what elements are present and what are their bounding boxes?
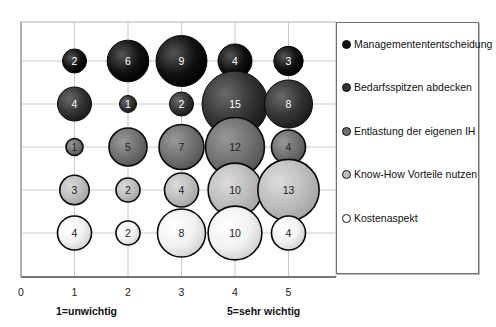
legend-label: Kostenaspekt <box>354 212 418 224</box>
legend-label: Bedarfsspitzen abdecken <box>354 81 472 93</box>
x-tick-label: 3 <box>179 286 185 298</box>
x-tick-label: 4 <box>232 286 238 298</box>
bubble-value-label: 4 <box>72 227 78 239</box>
bubble-value-label: 4 <box>179 184 185 196</box>
legend-item-kostenaspekt: Kostenaspekt <box>342 212 418 224</box>
legend-item-entlastung: Entlastung der eigenen IH <box>342 125 475 137</box>
bubble-value-label: 13 <box>283 184 295 196</box>
legend-item-management: Managementententscheidung <box>342 38 492 50</box>
chart-legend: Managementententscheidung Bedarfsspitzen… <box>336 22 479 274</box>
bubble-value-label: 5 <box>125 141 131 153</box>
legend-swatch-icon <box>342 170 351 179</box>
bubble-value-label: 3 <box>286 55 292 67</box>
axis-annotation-high: 5=sehr wichtig <box>227 305 300 317</box>
legend-swatch-icon <box>342 83 351 92</box>
bubble-value-label: 2 <box>179 98 185 110</box>
x-tick-label: 1 <box>72 286 78 298</box>
bubble-value-label: 2 <box>72 55 78 67</box>
legend-label: Entlastung der eigenen IH <box>354 125 475 137</box>
x-tick-label: 5 <box>286 286 292 298</box>
x-tick-label: 0 <box>18 286 24 298</box>
bubble-value-label: 6 <box>125 55 131 67</box>
bubble-value-label: 10 <box>229 227 241 239</box>
legend-item-bedarfsspitzen: Bedarfsspitzen abdecken <box>342 81 472 93</box>
x-tick-labels: 012345 <box>18 286 292 298</box>
bubble-value-label: 4 <box>286 227 292 239</box>
bubble-value-label: 4 <box>72 98 78 110</box>
bubble-value-label: 2 <box>125 227 131 239</box>
bubble-value-label: 1 <box>72 141 78 153</box>
bubble-value-label: 9 <box>179 55 185 67</box>
legend-swatch-icon <box>342 214 351 223</box>
bubble-value-label: 1 <box>125 98 131 110</box>
bubble-value-label: 8 <box>286 98 292 110</box>
legend-swatch-icon <box>342 40 351 49</box>
x-tick-label: 2 <box>125 286 131 298</box>
bubble-value-label: 12 <box>229 141 241 153</box>
bubble-value-label: 8 <box>179 227 185 239</box>
legend-label: Know-How Vorteile nutzen <box>354 168 477 180</box>
bubble-value-label: 3 <box>72 184 78 196</box>
bubble-value-label: 10 <box>229 184 241 196</box>
bubble-value-label: 7 <box>179 141 185 153</box>
legend-item-know-how: Know-How Vorteile nutzen <box>342 168 477 180</box>
legend-swatch-icon <box>342 127 351 136</box>
legend-label: Managementententscheidung <box>354 38 492 50</box>
bubble-value-label: 15 <box>229 98 241 110</box>
bubble-value-label: 2 <box>125 184 131 196</box>
bubble-value-label: 4 <box>232 55 238 67</box>
axis-annotation-low: 1=unwichtig <box>56 305 117 317</box>
bubble-value-label: 4 <box>286 141 292 153</box>
